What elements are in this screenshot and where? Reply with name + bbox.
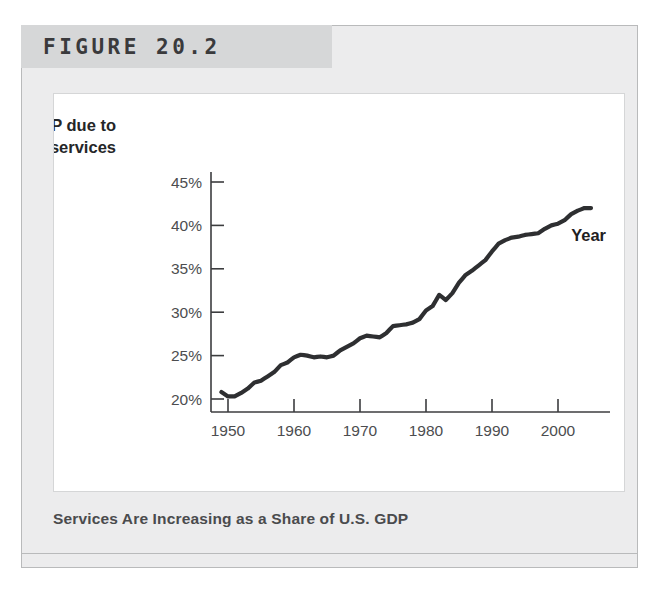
y-axis-tick-label: 30% bbox=[171, 304, 202, 321]
figure-root: FIGURE 20.2 GDP due to services 20%25%30… bbox=[0, 0, 667, 591]
x-axis-tick-label: 1990 bbox=[475, 422, 510, 439]
figure-number-band: FIGURE 20.2 bbox=[21, 25, 332, 68]
caption-divider bbox=[22, 553, 637, 554]
figure-caption: Services Are Increasing as a Share of U.… bbox=[53, 510, 625, 544]
x-axis-tick-label: 1980 bbox=[409, 422, 444, 439]
x-axis-tick-label: 1960 bbox=[277, 422, 312, 439]
x-axis-tick-label: 1970 bbox=[343, 422, 378, 439]
y-axis-title-line1: GDP due to bbox=[54, 116, 116, 134]
figure-number-label: FIGURE 20.2 bbox=[43, 35, 221, 59]
x-axis-tick-label: 1950 bbox=[211, 422, 246, 439]
y-axis-title-line2: services bbox=[54, 138, 116, 156]
x-axis: 195019601970198019902000 bbox=[211, 399, 610, 439]
y-axis: 20%25%30%35%40%45% bbox=[171, 172, 224, 412]
x-axis-title: Year bbox=[571, 226, 606, 244]
chart-plot-panel: GDP due to services 20%25%30%35%40%45% 1… bbox=[53, 93, 625, 492]
y-axis-tick-label: 40% bbox=[171, 217, 202, 234]
y-axis-tick-label: 35% bbox=[171, 260, 202, 277]
x-axis-tick-label: 2000 bbox=[541, 422, 576, 439]
y-axis-tick-label: 20% bbox=[171, 391, 202, 408]
y-axis-tick-label: 45% bbox=[171, 174, 202, 191]
line-chart: GDP due to services 20%25%30%35%40%45% 1… bbox=[54, 94, 624, 491]
data-line bbox=[221, 208, 591, 396]
data-series-group bbox=[221, 208, 591, 396]
y-axis-tick-label: 25% bbox=[171, 347, 202, 364]
